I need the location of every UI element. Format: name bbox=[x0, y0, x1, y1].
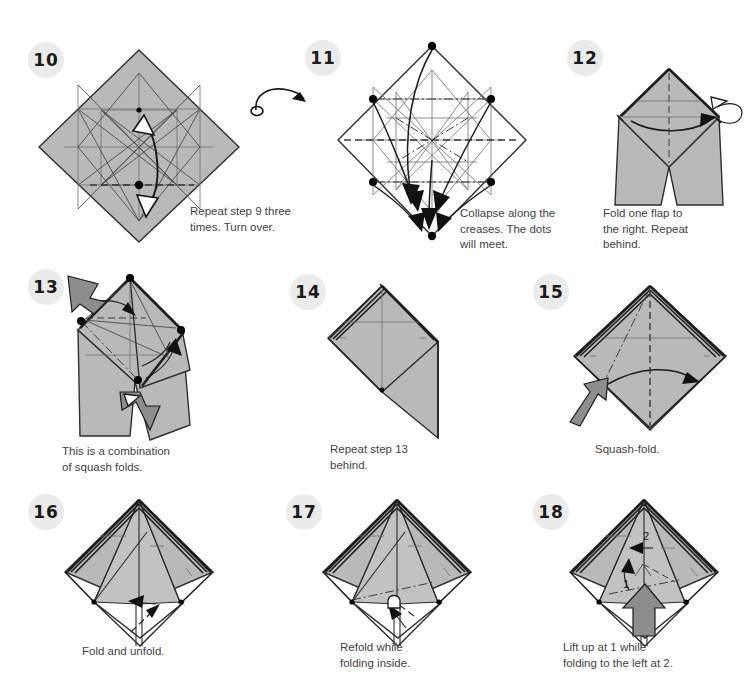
reference-dot bbox=[135, 181, 143, 189]
step-caption-18: Lift up at 1 while folding to the left a… bbox=[563, 640, 743, 671]
step-badge-17: 17 bbox=[286, 494, 322, 530]
step-badge-10: 10 bbox=[28, 42, 64, 78]
step-panel-17: 17 bbox=[258, 492, 508, 687]
reference-dot bbox=[136, 107, 141, 112]
step-figure-18: 2 1 bbox=[557, 496, 735, 646]
step-badge-11: 11 bbox=[305, 40, 341, 76]
reference-dot bbox=[126, 274, 134, 282]
reference-dot bbox=[369, 178, 377, 186]
step-caption-15: Squash-fold. bbox=[595, 442, 735, 458]
step-figure-14 bbox=[320, 280, 495, 445]
step-badge-14: 14 bbox=[290, 274, 326, 310]
reference-dot bbox=[428, 232, 436, 240]
step-badge-13: 13 bbox=[28, 269, 64, 305]
step-badge-18: 18 bbox=[533, 494, 569, 530]
step-caption-14: Repeat step 13 behind. bbox=[330, 442, 470, 473]
reference-dot bbox=[487, 178, 495, 186]
step-caption-13: This is a combination of squash folds. bbox=[62, 444, 222, 475]
reference-dot bbox=[91, 599, 96, 604]
diagram-18: 2 1 bbox=[557, 496, 735, 646]
diagram-17 bbox=[310, 496, 485, 646]
push-arrow bbox=[68, 276, 106, 314]
step-badge-12: 12 bbox=[567, 40, 603, 76]
diagram-16 bbox=[52, 496, 227, 646]
step-caption-16: Fold and unfold. bbox=[82, 644, 232, 660]
reference-dot bbox=[134, 376, 142, 384]
reference-dot bbox=[683, 599, 688, 604]
step-panel-16: 16 bbox=[0, 492, 250, 687]
reference-dot bbox=[428, 42, 436, 50]
reference-dot bbox=[177, 326, 185, 334]
step-figure-15 bbox=[560, 280, 740, 440]
reference-dot bbox=[349, 599, 354, 604]
step-badge-15: 15 bbox=[533, 274, 569, 310]
reference-dot bbox=[77, 317, 85, 325]
diagram-15 bbox=[560, 280, 740, 440]
push-arrow bbox=[570, 378, 608, 426]
reference-dot bbox=[178, 599, 183, 604]
reference-dot bbox=[596, 599, 601, 604]
reference-dot bbox=[487, 95, 495, 103]
step-panel-15: 15 bbox=[515, 262, 747, 497]
step-panel-18: 18 bbox=[505, 492, 747, 687]
origami-instruction-sheet: 10 bbox=[0, 0, 747, 687]
step-panel-14: 14 Repeat bbox=[268, 262, 508, 497]
reference-dot bbox=[436, 599, 441, 604]
diagram-14 bbox=[320, 280, 495, 445]
step-figure-13 bbox=[50, 270, 230, 445]
step-panel-12: 12 bbox=[545, 0, 747, 265]
diagram-13 bbox=[50, 270, 230, 445]
step-figure-16 bbox=[52, 496, 227, 646]
step-figure-12 bbox=[593, 55, 747, 210]
step-panel-10: 10 bbox=[0, 0, 250, 265]
reference-dot bbox=[369, 95, 377, 103]
step-caption-12: Fold one flap to the right. Repeat behin… bbox=[603, 206, 733, 253]
reference-dot bbox=[380, 388, 385, 393]
step-caption-17: Refold while folding inside. bbox=[340, 640, 490, 671]
diagram-12 bbox=[593, 55, 747, 210]
step-figure-17 bbox=[310, 496, 485, 646]
step-panel-11: 11 bbox=[290, 0, 520, 265]
step-badge-16: 16 bbox=[28, 494, 64, 530]
step-label-2: 2 bbox=[643, 530, 649, 542]
step-panel-13: 13 bbox=[0, 262, 250, 497]
